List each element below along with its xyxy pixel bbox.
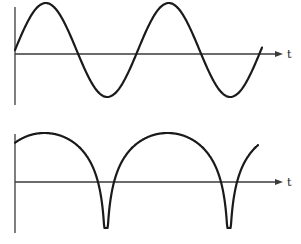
top-x-axis-label: t xyxy=(287,48,292,61)
top-x-axis-arrow-icon xyxy=(275,51,283,57)
cusped-wave-curve xyxy=(15,133,258,228)
sine-wave-curve xyxy=(15,3,262,97)
top-panel: t xyxy=(15,3,292,105)
bottom-x-axis-label: t xyxy=(287,176,292,189)
bottom-panel: t xyxy=(15,133,292,233)
bottom-x-axis-arrow-icon xyxy=(275,179,283,185)
waveform-figure: t t xyxy=(0,0,301,244)
